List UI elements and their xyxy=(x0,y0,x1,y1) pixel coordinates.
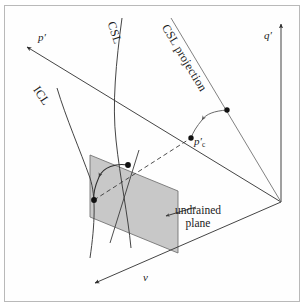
figure-root: p′ q′ v CSL ICL CSL projection p′c undra… xyxy=(0,0,306,308)
axis-label-q-prime-mark: ′ xyxy=(270,29,272,41)
diagram-canvas xyxy=(0,0,306,308)
annotation-undrained-plane-text: undrained plane xyxy=(175,204,221,230)
axis-label-p-prime: p′ xyxy=(38,32,46,44)
axis-label-q-prime: q′ xyxy=(264,30,272,42)
annotation-undrained-plane: undrained plane xyxy=(175,190,221,231)
icl-curve xyxy=(57,88,94,258)
lower-plane-point xyxy=(91,197,97,203)
csl-projection-point xyxy=(224,107,229,112)
axis-label-v-text: v xyxy=(143,271,148,283)
pc-mapping-arrow xyxy=(202,110,227,120)
upper-plane-point xyxy=(125,162,131,168)
pc-point xyxy=(188,135,193,140)
axis-p-prime xyxy=(27,47,281,202)
axis-label-p-prime-mark: ′ xyxy=(44,31,46,43)
annotation-pc: p′c xyxy=(194,136,205,149)
undrained-plane-shape xyxy=(90,155,178,253)
axis-label-v: v xyxy=(143,272,148,284)
annotation-pc-subscript: c xyxy=(202,140,205,149)
